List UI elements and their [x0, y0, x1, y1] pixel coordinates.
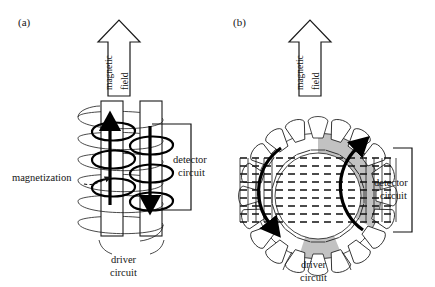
detector-circuit-label-b-line1: detector [374, 177, 408, 188]
field-arrow-word-field-b: field [311, 72, 321, 90]
driver-circuit-label-line2: circuit [110, 267, 137, 278]
figure-root: (a) magnetic field [0, 0, 435, 287]
panel-b-label: (b) [233, 16, 246, 29]
field-arrow-word-magnetic-b: magnetic [295, 55, 305, 90]
figure-canvas: (a) magnetic field [0, 0, 435, 287]
magnetization-label: magnetization [12, 172, 72, 183]
field-arrow-word-field: field [120, 72, 130, 90]
detector-circuit-label-line1: detector [173, 154, 207, 165]
detector-circuit-label-b-line2: circuit [380, 190, 407, 201]
driver-circuit-label-b-line2: circuit [300, 272, 327, 283]
panel-a-label: (a) [18, 16, 31, 29]
driver-circuit-label-line1: driver [111, 254, 137, 265]
driver-circuit-label-b-line1: driver [301, 259, 327, 270]
field-arrow-word-magnetic: magnetic [104, 55, 114, 90]
detector-circuit-label-line2: circuit [178, 167, 205, 178]
